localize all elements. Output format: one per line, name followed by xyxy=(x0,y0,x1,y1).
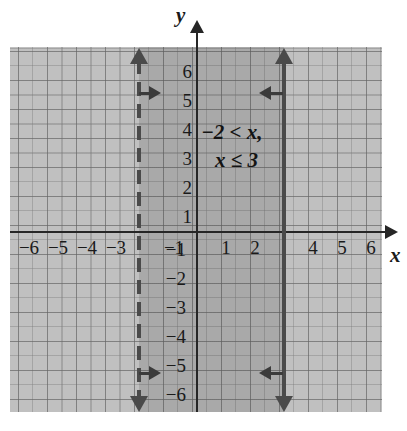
y-tick-label: 4 xyxy=(168,120,192,139)
x-axis-arrowhead-icon xyxy=(385,225,398,239)
inequality-line-1: −2 < x, xyxy=(201,119,262,147)
x-axis-label: x xyxy=(390,243,401,268)
unshaded-right-region xyxy=(284,47,382,412)
arrow-left-icon xyxy=(259,86,271,100)
shade-direction-arrow-bottom-right xyxy=(271,372,283,375)
x-tick-label: 1 xyxy=(212,238,240,257)
inequality-annotation: −2 < x, x ≤ 3 xyxy=(201,119,262,174)
x-tick-label: 5 xyxy=(328,238,356,257)
y-tick-label: 1 xyxy=(168,207,192,226)
unshaded-left-region xyxy=(10,47,139,412)
y-tick-label: −4 xyxy=(162,327,186,346)
dashed-line-down-arrow-icon xyxy=(130,396,148,412)
arrow-left-icon xyxy=(259,366,271,380)
x-tick-label: −3 xyxy=(102,238,130,257)
arrow-right-icon xyxy=(149,366,161,380)
y-axis-line xyxy=(196,32,198,412)
x-axis-line xyxy=(10,231,388,233)
y-tick-label: −1 xyxy=(162,240,186,259)
arrow-right-icon xyxy=(149,86,161,100)
x-tick-label: 6 xyxy=(357,238,385,257)
y-tick-label: −3 xyxy=(162,298,186,317)
x-tick-label: 2 xyxy=(241,238,269,257)
y-tick-label: −6 xyxy=(162,385,186,404)
x-tick-label: 4 xyxy=(299,238,327,257)
solid-line-down-arrow-icon xyxy=(275,396,293,412)
inequality-line-2: x ≤ 3 xyxy=(201,147,262,175)
inequality-graph-figure: x y −6 −5 −4 −3 −1 1 2 4 5 6 6 5 4 3 2 1… xyxy=(0,0,407,431)
x-tick-label: −4 xyxy=(73,238,101,257)
x-tick-label: −5 xyxy=(44,238,72,257)
x-tick-label: −6 xyxy=(15,238,43,257)
y-tick-label: 2 xyxy=(168,178,192,197)
y-tick-label: −5 xyxy=(162,356,186,375)
boundary-line-dashed-x-equals-minus-2 xyxy=(137,60,141,400)
boundary-line-solid-x-equals-3 xyxy=(282,60,286,400)
shade-direction-arrow-top-right xyxy=(271,92,283,95)
y-tick-label: −2 xyxy=(162,269,186,288)
y-tick-label: 5 xyxy=(168,91,192,110)
y-axis-arrowhead-icon xyxy=(190,20,204,33)
y-tick-label: 6 xyxy=(168,62,192,81)
y-tick-label: 3 xyxy=(168,149,192,168)
y-axis-label: y xyxy=(176,3,185,28)
dashed-line-up-arrow-icon xyxy=(130,48,148,64)
solid-line-up-arrow-icon xyxy=(275,48,293,64)
solution-region-shading xyxy=(139,47,284,412)
